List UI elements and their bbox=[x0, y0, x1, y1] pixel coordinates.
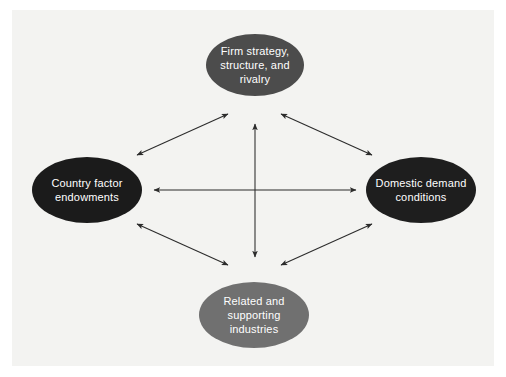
diagram-canvas: Firm strategy, structure, and rivalry Co… bbox=[0, 0, 506, 377]
node-country-factor-endowments[interactable]: Country factor endowments bbox=[32, 157, 142, 223]
connector-top-right bbox=[281, 114, 372, 155]
connector-left-top bbox=[137, 114, 228, 155]
node-firm-strategy[interactable]: Firm strategy, structure, and rivalry bbox=[206, 34, 304, 96]
node-domestic-demand-conditions-label: Domestic demand conditions bbox=[374, 176, 468, 204]
node-country-factor-endowments-label: Country factor endowments bbox=[40, 176, 134, 204]
connector-left-bottom bbox=[137, 224, 228, 265]
connector-bottom-right bbox=[281, 224, 372, 265]
node-domestic-demand-conditions[interactable]: Domestic demand conditions bbox=[366, 157, 476, 223]
node-related-supporting-industries-label: Related and supporting industries bbox=[207, 294, 301, 336]
node-related-supporting-industries[interactable]: Related and supporting industries bbox=[199, 282, 309, 348]
node-firm-strategy-label: Firm strategy, structure, and rivalry bbox=[214, 44, 296, 86]
